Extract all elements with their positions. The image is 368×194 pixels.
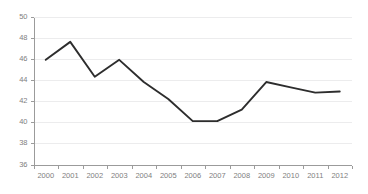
y-axis-tick-label: 48 bbox=[19, 33, 27, 42]
x-axis-tick-label: 2004 bbox=[135, 171, 152, 180]
chart-canvas: 3638404244464850 20002001200220032004200… bbox=[0, 0, 368, 194]
x-axis-tick-label: 2003 bbox=[111, 171, 128, 180]
y-axis-tick-label: 46 bbox=[19, 54, 27, 63]
x-axis-tick-label: 2009 bbox=[258, 171, 275, 180]
line-chart: 3638404244464850 20002001200220032004200… bbox=[0, 0, 368, 194]
x-axis-tick-label: 2011 bbox=[307, 171, 323, 180]
y-axis-tick-label: 38 bbox=[19, 138, 27, 147]
x-axis-tick-label: 2001 bbox=[62, 171, 79, 180]
x-axis-tick-label: 2010 bbox=[282, 171, 299, 180]
y-axis-tick-label: 42 bbox=[19, 96, 27, 105]
x-axis-tick-label: 2000 bbox=[37, 171, 54, 180]
x-axis-tick-label: 2006 bbox=[184, 171, 201, 180]
y-axis-tick-label: 40 bbox=[19, 117, 27, 126]
y-axis-tick-label: 50 bbox=[19, 12, 27, 21]
x-axis-tick-label: 2005 bbox=[160, 171, 177, 180]
x-axis-tick-label: 2002 bbox=[86, 171, 103, 180]
chart-background bbox=[0, 0, 368, 194]
y-axis-tick-label: 36 bbox=[19, 160, 27, 169]
x-axis-tick-label: 2012 bbox=[331, 171, 348, 180]
x-axis-tick-label: 2007 bbox=[209, 171, 226, 180]
x-axis-tick-label: 2008 bbox=[233, 171, 250, 180]
y-axis-tick-label: 44 bbox=[19, 75, 27, 84]
